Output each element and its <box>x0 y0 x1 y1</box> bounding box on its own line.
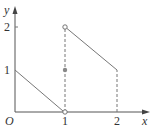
filled-point-1-1 <box>63 68 67 72</box>
y-axis-label: y <box>4 4 9 16</box>
segment-1 <box>15 70 63 111</box>
x-tick-1: 1 <box>62 115 68 127</box>
open-point-1-2 <box>63 25 67 29</box>
function-graph <box>0 0 155 136</box>
segment-2 <box>67 29 117 71</box>
y-tick-2: 2 <box>4 21 10 33</box>
y-axis-arrow-icon <box>13 6 18 14</box>
origin-label: O <box>5 115 14 127</box>
y-tick-1: 1 <box>4 64 10 76</box>
x-axis-label: x <box>142 115 147 127</box>
x-tick-2: 2 <box>114 115 120 127</box>
